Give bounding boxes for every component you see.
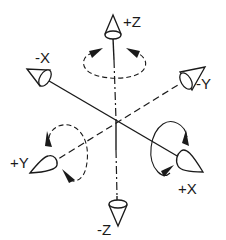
- x-rotation-arrow-top-icon: [182, 130, 189, 146]
- axes-diagram: +Z -Z -X +X -Y +Y: [0, 0, 226, 240]
- label-neg-y: -Y: [196, 75, 211, 92]
- pos-z-cone-icon: [105, 15, 121, 39]
- z-axis-upper-solid: [113, 38, 114, 60]
- y-rotation-loop: [49, 125, 87, 181]
- x-axis-line: [44, 78, 184, 160]
- pos-y-cone-icon: [30, 156, 57, 173]
- y-rotation-indicator: [45, 125, 87, 183]
- y-rotation-arrow-bottom-icon: [62, 169, 75, 183]
- z-rotation-arrow-right-icon: [126, 48, 140, 58]
- neg-z-cone-icon: [109, 200, 127, 226]
- label-pos-y: +Y: [10, 154, 29, 171]
- z-axis-upper-dashdot: [114, 60, 116, 120]
- neg-x-cone-icon: [27, 68, 54, 89]
- z-axis-lower-dashdot: [116, 150, 117, 196]
- label-neg-x: -X: [35, 49, 50, 66]
- label-pos-x: +X: [178, 180, 197, 197]
- x-axis: [44, 78, 184, 160]
- label-pos-z: +Z: [123, 13, 141, 30]
- z-rotation-arrow-left-icon: [89, 48, 103, 58]
- y-rotation-arrow-top-icon: [45, 131, 52, 147]
- label-neg-z: -Z: [97, 221, 111, 238]
- pos-x-cone-icon: [177, 150, 203, 172]
- z-axis: [113, 38, 117, 204]
